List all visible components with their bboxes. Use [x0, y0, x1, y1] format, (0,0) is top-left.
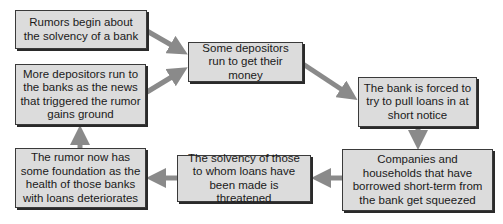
arrow-n2-to-n3: [303, 64, 350, 95]
node-rumors-begin: Rumors begin about the solvency of a ban…: [15, 10, 147, 49]
node-more-depositors-run: More depositors run to the banks as the …: [15, 64, 146, 125]
node-solvency-threatened: The solvency of those to whom loans have…: [177, 155, 311, 202]
node-borrowers-squeezed: Companies and households that have borro…: [342, 149, 493, 211]
node-bank-pulls-loans: The bank is forced to try to pull loans …: [358, 77, 477, 127]
node-rumor-foundation: The rumor now has some foundation as the…: [15, 148, 146, 208]
node-text: Rumors begin about the solvency of a ban…: [20, 16, 142, 43]
node-text: The rumor now has some foundation as the…: [20, 151, 141, 205]
node-text: Some depositors run to get their money: [193, 42, 298, 83]
node-text: The solvency of those to whom loans have…: [182, 152, 306, 206]
node-text: More depositors run to the banks as the …: [20, 68, 141, 122]
node-text: Companies and households that have borro…: [347, 153, 488, 207]
arrow-n7-to-n2: [147, 72, 180, 92]
node-text: The bank is forced to try to pull loans …: [363, 82, 472, 123]
node-some-depositors-run: Some depositors run to get their money: [188, 42, 303, 82]
arrow-n1-to-n2: [147, 31, 180, 50]
